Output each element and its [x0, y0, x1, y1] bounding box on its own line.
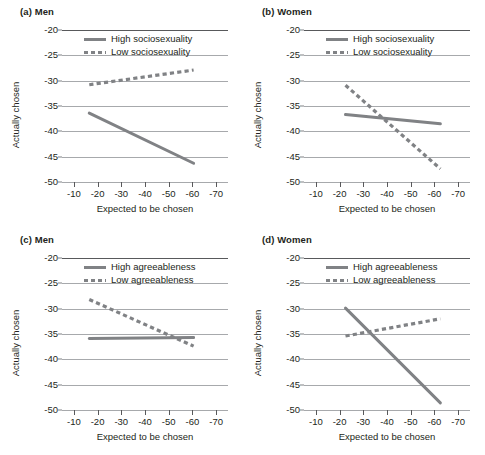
y-tick-label: -30 — [44, 304, 58, 314]
y-tick-label: -35 — [286, 329, 300, 339]
y-tick-label: -50 — [44, 177, 58, 187]
y-axis-label-b: Actually chosen — [252, 0, 266, 50]
x-tick-label: -40 — [380, 417, 394, 427]
legend-b: High sociosexualityLow sociosexuality — [326, 32, 434, 58]
legend-key-dashed-icon — [84, 47, 106, 57]
x-tick-mark — [411, 182, 412, 187]
y-tick-label: -50 — [44, 405, 58, 415]
legend-item: High agreeableness — [84, 260, 196, 273]
x-tick-mark — [434, 410, 435, 415]
x-tick-label: -50 — [162, 417, 176, 427]
x-tick-label: -20 — [91, 189, 105, 199]
x-tick-mark — [121, 410, 122, 415]
figure-four-panel-interaction-plots: (a) MenActually chosenExpected to be cho… — [0, 0, 485, 455]
x-tick-label: -50 — [404, 417, 418, 427]
x-tick-mark — [340, 410, 341, 415]
plot-area-b: -50-45-40-35-30-25-20-10-20-30-40-50-60-… — [304, 30, 470, 182]
x-tick-label: -60 — [428, 189, 442, 199]
legend-label: Low agreeableness — [353, 273, 435, 286]
x-tick-mark — [316, 410, 317, 415]
x-tick-mark — [121, 182, 122, 187]
panel-d: (d) WomenActually chosenExpected to be c… — [242, 228, 484, 455]
plot-area-a: -50-45-40-35-30-25-20-10-20-30-40-50-60-… — [62, 30, 228, 182]
x-tick-mark — [411, 410, 412, 415]
legend-key-solid-icon — [84, 262, 106, 272]
panel-c: (c) MenActually chosenExpected to be cho… — [0, 228, 242, 455]
legend-label: High agreeableness — [111, 260, 196, 273]
panel-label-a: (a) Men — [20, 6, 54, 17]
legend-label: Low agreeableness — [111, 273, 193, 286]
x-tick-label: -70 — [451, 417, 465, 427]
x-tick-label: -60 — [186, 417, 200, 427]
y-tick-label: -35 — [44, 101, 58, 111]
y-tick-label: -30 — [286, 304, 300, 314]
x-tick-label: -70 — [209, 189, 223, 199]
y-tick-label: -25 — [286, 51, 300, 61]
y-axis-label-a: Actually chosen — [10, 0, 24, 50]
x-tick-label: -40 — [138, 417, 152, 427]
y-tick-label: -20 — [286, 253, 300, 263]
x-tick-mark — [363, 182, 364, 187]
x-tick-label: -10 — [67, 417, 81, 427]
y-axis-label-c: Actually chosen — [10, 148, 24, 278]
legend-label: High agreeableness — [353, 260, 438, 273]
y-tick-label: -20 — [286, 25, 300, 35]
x-tick-mark — [74, 182, 75, 187]
legend-a: High sociosexualityLow sociosexuality — [84, 32, 192, 58]
x-tick-label: -10 — [67, 189, 81, 199]
x-tick-mark — [192, 182, 193, 187]
series-line-dashed — [346, 85, 441, 169]
y-tick-label: -25 — [286, 279, 300, 289]
x-tick-label: -30 — [356, 417, 370, 427]
y-tick-label: -40 — [44, 127, 58, 137]
legend-c: High agreeablenessLow agreeableness — [84, 260, 196, 286]
x-tick-label: -20 — [333, 189, 347, 199]
y-tick-label: -50 — [286, 405, 300, 415]
x-tick-mark — [216, 182, 217, 187]
legend-key-solid-icon — [326, 262, 348, 272]
legend-key-solid-icon — [326, 34, 348, 44]
y-axis-label-d: Actually chosen — [252, 148, 266, 278]
series-line-solid — [346, 115, 441, 124]
x-tick-label: -10 — [309, 189, 323, 199]
y-axis-label-text: Actually chosen — [252, 278, 263, 408]
x-tick-mark — [145, 410, 146, 415]
x-tick-mark — [192, 410, 193, 415]
legend-item: High sociosexuality — [84, 32, 192, 45]
y-tick-label: -35 — [44, 329, 58, 339]
legend-key-solid-icon — [84, 34, 106, 44]
legend-item: Low sociosexuality — [84, 45, 192, 58]
y-tick-label: -30 — [286, 76, 300, 86]
y-tick-label: -40 — [286, 127, 300, 137]
x-axis-label-d: Expected to be chosen — [304, 431, 470, 442]
plot-area-c: -50-45-40-35-30-25-20-10-20-30-40-50-60-… — [62, 258, 228, 410]
x-tick-mark — [74, 410, 75, 415]
x-tick-label: -20 — [333, 417, 347, 427]
y-tick-label: -45 — [44, 152, 58, 162]
y-tick-label: -25 — [44, 51, 58, 61]
x-tick-mark — [98, 410, 99, 415]
x-tick-mark — [458, 410, 459, 415]
x-tick-label: -60 — [428, 417, 442, 427]
y-tick-label: -40 — [44, 355, 58, 365]
plot-area-d: -50-45-40-35-30-25-20-10-20-30-40-50-60-… — [304, 258, 470, 410]
legend-key-dashed-icon — [84, 275, 106, 285]
x-tick-mark — [387, 410, 388, 415]
y-tick-label: -25 — [44, 279, 58, 289]
x-tick-label: -70 — [209, 417, 223, 427]
panel-label-b: (b) Women — [262, 6, 312, 17]
x-tick-label: -20 — [91, 417, 105, 427]
x-tick-mark — [145, 182, 146, 187]
x-tick-mark — [169, 410, 170, 415]
legend-label: Low sociosexuality — [111, 45, 190, 58]
x-tick-mark — [387, 182, 388, 187]
y-tick-label: -50 — [286, 177, 300, 187]
y-tick-label: -45 — [286, 380, 300, 390]
x-tick-label: -70 — [451, 189, 465, 199]
panel-b: (b) WomenActually chosenExpected to be c… — [242, 0, 484, 227]
y-tick-label: -20 — [44, 253, 58, 263]
legend-key-dashed-icon — [326, 47, 348, 57]
legend-item: Low sociosexuality — [326, 45, 434, 58]
x-tick-mark — [98, 182, 99, 187]
series-line-solid — [89, 113, 193, 163]
